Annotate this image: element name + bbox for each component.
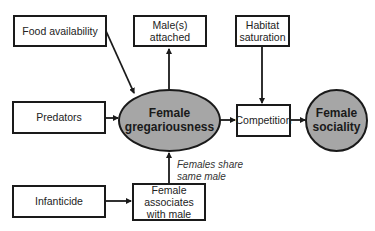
node-female-sociality: Female sociality [305, 89, 368, 152]
edge-label-line1: Females share [177, 159, 243, 171]
node-food-availability: Food availability [13, 15, 107, 47]
node-label-line1: Habitat [246, 19, 279, 31]
edge-label-line2: same male [177, 171, 243, 183]
node-female-gregariousness: Female gregariousness [118, 89, 221, 152]
node-predators: Predators [12, 101, 106, 134]
node-males-attached: Male(s) attached [133, 15, 207, 47]
node-female-associates-with-male: Female associates with male [132, 183, 206, 221]
node-label-line2: sociality [312, 121, 360, 135]
node-label: Predators [36, 111, 82, 123]
node-label-line1: Female [149, 107, 190, 121]
node-infanticide: Infanticide [12, 185, 106, 218]
node-label-line2: gregariousness [125, 121, 214, 135]
node-label-line1: Female [151, 184, 186, 196]
arrow-food-to-gregariousness [106, 31, 134, 93]
edge-label-females-share-same-male: Females share same male [177, 159, 243, 183]
node-label-line1: Female [316, 107, 357, 121]
node-label-line2: associates [144, 196, 194, 208]
node-habitat-saturation: Habitat saturation [235, 15, 290, 47]
node-label: Infanticide [35, 195, 83, 207]
node-label: Food availability [22, 25, 97, 37]
node-label-line2: saturation [239, 31, 285, 43]
node-label-line3: with male [147, 208, 191, 220]
node-competition: Competition [236, 104, 291, 137]
node-label: Competition [235, 114, 291, 126]
node-label: Male(s) attached [135, 19, 205, 43]
